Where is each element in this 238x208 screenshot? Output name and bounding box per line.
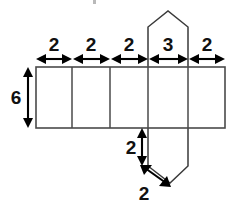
dimension-arrow-top-5 <box>189 54 225 64</box>
dimension-arrow-left-height <box>23 67 33 128</box>
dimension-label-bottom-diagonal: 2 <box>139 183 150 204</box>
dimension-arrow-top-2 <box>73 54 110 64</box>
dimension-label-top-4: 3 <box>163 34 174 55</box>
geometry-net-figure: 2 2 2 3 2 <box>0 0 238 208</box>
dimension-label-top-2: 2 <box>86 34 97 55</box>
dimension-label-bottom-vertical: 2 <box>126 137 137 158</box>
dimension-arrow-bottom-vertical <box>137 128 147 166</box>
dimension-label-top-3: 2 <box>124 34 135 55</box>
top-text-artifact <box>93 0 96 4</box>
dimension-arrow-top-3 <box>111 54 148 64</box>
dimension-label-top-5: 2 <box>202 34 213 55</box>
dimension-label-top-1: 2 <box>49 34 60 55</box>
dimension-label-left-height: 6 <box>11 87 22 108</box>
net-face-row <box>36 67 225 128</box>
dimension-arrow-top-1 <box>36 54 72 64</box>
net-diagram-svg: 2 2 2 3 2 <box>0 0 238 208</box>
